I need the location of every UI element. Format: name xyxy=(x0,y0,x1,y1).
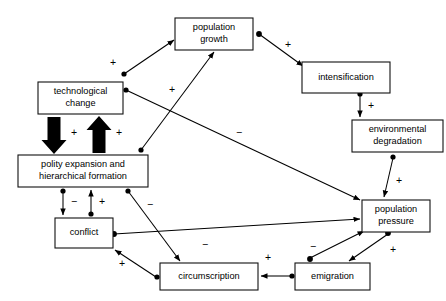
link-origin-dot xyxy=(390,154,395,159)
link-tech-to-population-pressure: − xyxy=(123,87,360,200)
link-tech-to-population-growth: + xyxy=(110,40,174,77)
node-label-line2: change xyxy=(65,98,95,108)
link-line xyxy=(349,234,388,261)
link-origin-dot xyxy=(125,188,130,193)
node-label-line1: polity expansion and xyxy=(41,159,125,169)
link-origin-dot xyxy=(256,31,262,37)
link-sign-label: − xyxy=(71,195,77,207)
node-label-line1: environmental xyxy=(369,124,427,134)
link-sign-label: + xyxy=(169,83,175,95)
link-circumscription-to-conflict: + xyxy=(115,250,160,280)
link-line xyxy=(259,34,303,66)
link-origin-dot xyxy=(307,256,313,262)
link-origin-dot xyxy=(289,273,294,278)
link-conflict-to-population-pressure: − xyxy=(111,219,360,250)
block-arrow-tech-to-polity: + xyxy=(42,117,78,154)
node-label-line1: emigration xyxy=(311,271,354,281)
link-line xyxy=(126,90,360,200)
link-line xyxy=(384,158,393,197)
link-polity-to-conflict: − xyxy=(60,188,77,215)
diagram-canvas: + + + + xyxy=(0,0,446,301)
link-sign-label: − xyxy=(147,198,153,210)
block-arrow-polity-to-tech: + xyxy=(87,116,123,153)
link-line xyxy=(310,231,364,258)
link-origin-dot xyxy=(88,211,93,216)
block-arrow-sign-label: + xyxy=(71,126,77,138)
node-label-line1: population xyxy=(193,22,235,32)
nodes-layer: population growth technological change i… xyxy=(18,18,443,290)
link-emigration-to-circumscription: + xyxy=(261,251,295,279)
node-intensification[interactable]: intensification xyxy=(302,62,390,93)
link-environmental-degradation-to-population-pressure: + xyxy=(384,154,402,197)
node-population-pressure[interactable]: population pressure xyxy=(362,200,430,232)
link-line xyxy=(124,40,174,74)
link-polity-to-circumscription: − xyxy=(125,188,180,261)
link-sign-label: + xyxy=(110,56,116,68)
node-label-line1: circumscription xyxy=(178,271,239,281)
link-sign-label: + xyxy=(285,38,291,50)
node-label-line2: pressure xyxy=(378,216,414,226)
causal-loop-diagram: + + + + xyxy=(0,0,446,301)
block-arrow-sign-label: + xyxy=(116,126,122,138)
link-sign-label: − xyxy=(236,126,242,138)
link-origin-dot xyxy=(121,71,126,76)
node-polity-expansion[interactable]: polity expansion and hierarchical format… xyxy=(18,155,148,187)
node-technological-change[interactable]: technological change xyxy=(38,82,123,114)
link-sign-label: + xyxy=(368,99,374,111)
node-label-line1: population xyxy=(375,204,417,214)
node-circumscription[interactable]: circumscription xyxy=(160,263,258,290)
link-origin-dot xyxy=(154,274,159,279)
node-environmental-degradation[interactable]: environmental degradation xyxy=(352,120,443,152)
block-arrow-shape xyxy=(42,117,67,154)
link-line xyxy=(128,191,180,261)
link-population-growth-to-intensification: + xyxy=(256,31,303,66)
link-sign-label: + xyxy=(99,195,105,207)
block-arrow-shape xyxy=(87,116,112,153)
node-label-line2: hierarchical formation xyxy=(39,171,127,181)
link-sign-label: + xyxy=(265,251,271,263)
link-origin-dot xyxy=(138,147,143,152)
link-sign-label: + xyxy=(396,174,402,186)
link-sign-label: + xyxy=(119,257,125,269)
node-label-line1: intensification xyxy=(318,72,374,82)
link-polity-to-population-growth: + xyxy=(138,52,214,153)
link-conflict-to-polity: + xyxy=(88,190,105,217)
link-line xyxy=(141,52,214,150)
node-emigration[interactable]: emigration xyxy=(295,263,370,290)
link-sign-label: − xyxy=(310,240,316,252)
block-arrows-layer: + + xyxy=(42,116,123,154)
link-emigration-to-population-pressure: − xyxy=(307,231,364,262)
node-label-line2: growth xyxy=(200,34,228,44)
link-intensification-to-environmental-degradation: + xyxy=(357,91,374,117)
link-sign-label: + xyxy=(390,243,396,255)
node-population-growth[interactable]: population growth xyxy=(175,18,253,50)
node-label-line2: degradation xyxy=(373,136,422,146)
node-conflict[interactable]: conflict xyxy=(55,218,113,248)
link-sign-label: − xyxy=(202,238,208,250)
node-label-line1: technological xyxy=(54,86,108,96)
link-origin-dot xyxy=(60,188,65,193)
link-origin-dot xyxy=(123,87,128,92)
node-label-line1: conflict xyxy=(70,227,99,237)
